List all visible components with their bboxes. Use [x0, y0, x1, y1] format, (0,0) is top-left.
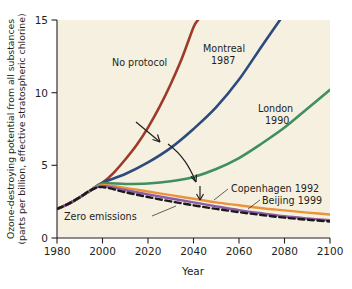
x-axis-title: Year [181, 265, 205, 277]
series-label-no-protocol: No protocol [112, 57, 167, 68]
series-label-zero-emissions: Zero emissions [64, 211, 137, 222]
series-label-beijing: Beijing 1999 [262, 195, 322, 206]
series-label-london-line2: 1990 [265, 115, 289, 126]
x-tick-label-2060: 2060 [226, 245, 253, 257]
series-label-london-line1: London [258, 103, 293, 114]
x-tick-label-2020: 2020 [135, 245, 162, 257]
x-tick-label-2080: 2080 [271, 245, 298, 257]
x-tick-label-2040: 2040 [180, 245, 207, 257]
y-tick-label-10: 10 [35, 87, 48, 99]
y-tick-label-15: 15 [35, 14, 48, 26]
x-tick-label-2000: 2000 [89, 245, 116, 257]
y-tick-label-0: 0 [41, 232, 48, 244]
x-axis-ticks: 1980 2000 2020 2040 2060 2080 2100 [44, 238, 344, 257]
y-tick-label-5: 5 [41, 159, 48, 171]
chart-canvas: 15 10 5 0 1980 2000 2020 2040 2060 2080 … [0, 0, 352, 289]
series-label-copenhagen: Copenhagen 1992 [231, 183, 319, 194]
y-axis-title-line1: Ozone-destroying potential from all subs… [5, 19, 16, 239]
series-label-montreal-line1: Montreal [203, 43, 245, 54]
x-tick-label-2100: 2100 [317, 245, 344, 257]
x-tick-label-1980: 1980 [44, 245, 71, 257]
y-axis-ticks: 15 10 5 0 [35, 14, 57, 244]
y-axis-title-line2: (parts per billion, effective stratosphe… [16, 13, 27, 244]
series-label-montreal-line2: 1987 [211, 55, 235, 66]
ozone-depletion-chart-figure: 15 10 5 0 1980 2000 2020 2040 2060 2080 … [0, 0, 352, 289]
